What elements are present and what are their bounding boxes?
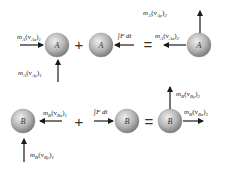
label-b-initial-y-momentum: mB(vBy)1 (30, 151, 54, 160)
sphere-a-final-label: A (196, 41, 202, 50)
impulse-momentum-diagram: mA(vAx)1 A mA(vAy)1 + A ∫F dt = mA(vAx)2… (0, 0, 227, 173)
equals-sign-a: = (144, 36, 153, 53)
label-b-initial-x-momentum: mB(vBx)1 (43, 109, 67, 118)
sphere-a-impulse-label: A (98, 41, 104, 50)
plus-sign-a: + (75, 36, 84, 53)
label-a-final-x-momentum: mA(vAx)2 (155, 32, 180, 41)
row-b: B mB(vBx)1 mB(vBy)1 + ∫F dt B = B mB(vBy… (11, 87, 209, 162)
label-b-final-y-momentum: mB(vBy)2 (176, 90, 201, 99)
label-a-initial-x-momentum: mA(vAx)1 (17, 33, 41, 42)
label-a-impulse: ∫F dt (117, 32, 132, 40)
label-b-impulse: ∫F dt (93, 108, 108, 116)
label-a-final-y-momentum: mA(vAy)2 (143, 9, 167, 18)
sphere-b-final-label: B (168, 117, 173, 126)
sphere-a-initial-label: A (54, 41, 60, 50)
plus-sign-b: + (75, 113, 84, 130)
label-b-final-x-momentum: mB(vBx)2 (184, 108, 209, 117)
sphere-b-initial-label: B (21, 117, 26, 126)
label-a-initial-y-momentum: mA(vAy)1 (18, 69, 42, 78)
equals-sign-b: = (145, 113, 154, 130)
sphere-b-impulse-label: B (125, 117, 130, 126)
row-a: mA(vAx)1 A mA(vAy)1 + A ∫F dt = mA(vAx)2… (17, 9, 211, 82)
